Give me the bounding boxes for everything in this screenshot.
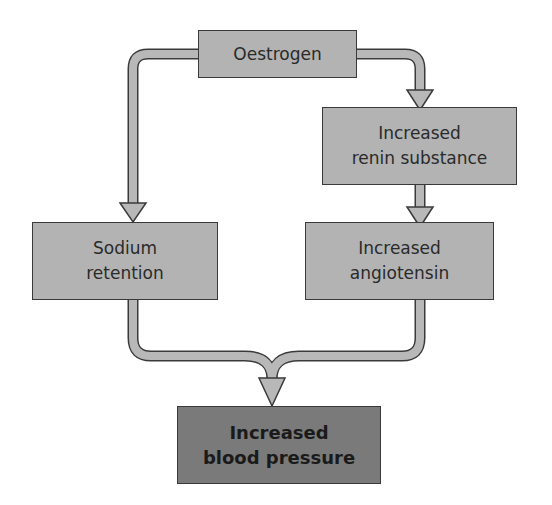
arrowhead-sodium-icon: [120, 203, 146, 222]
node-angiotensin: Increased angiotensin: [305, 222, 494, 300]
arrow-oestrogen-sodium: [133, 54, 198, 205]
node-label: Increased blood pressure: [203, 420, 355, 470]
node-label: Increased angiotensin: [350, 236, 449, 286]
node-renin: Increased renin substance: [322, 107, 517, 185]
node-label: Sodium retention: [86, 236, 164, 286]
node-sodium: Sodium retention: [32, 222, 218, 300]
node-oestrogen: Oestrogen: [198, 30, 357, 78]
arrowhead-bp-icon: [259, 378, 285, 406]
node-label: Oestrogen: [233, 42, 321, 67]
node-blood-pressure: Increased blood pressure: [177, 406, 381, 484]
node-label: Increased renin substance: [352, 121, 488, 171]
